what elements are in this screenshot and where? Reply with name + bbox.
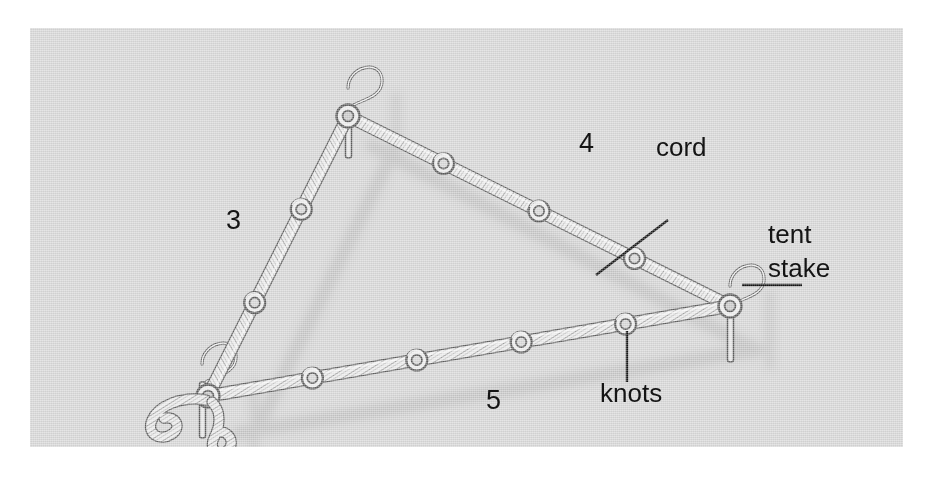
cord-loose-end-right-body: [212, 402, 231, 447]
vertex-knot-right: [719, 295, 742, 318]
knot: [302, 368, 323, 389]
cord-side-3-highlight: [211, 118, 351, 398]
vertex-knot-top: [337, 105, 360, 128]
side-label-3: 3: [226, 206, 241, 235]
side-label-4: 4: [579, 129, 594, 158]
knot: [291, 199, 312, 220]
cord-loose-ends: [151, 399, 232, 447]
illustration-panel: 3 4 5 cord tent stake knots: [30, 28, 903, 447]
tent-stake-callout-label-line2: stake: [768, 254, 830, 282]
cord-callout-label: cord: [656, 133, 707, 161]
knots-callout-label: knots: [600, 379, 662, 407]
figure-root: 3 4 5 cord tent stake knots: [0, 0, 927, 477]
knot: [511, 332, 532, 353]
cord-side-3-body: [208, 116, 348, 396]
knot: [433, 153, 454, 174]
cord-side-3: [208, 116, 351, 398]
knot: [529, 201, 550, 222]
knot: [406, 350, 427, 371]
side-label-5: 5: [486, 386, 501, 415]
knot: [244, 292, 265, 313]
knot: [615, 314, 636, 335]
tent-stake-callout-label-line1: tent: [768, 220, 811, 248]
